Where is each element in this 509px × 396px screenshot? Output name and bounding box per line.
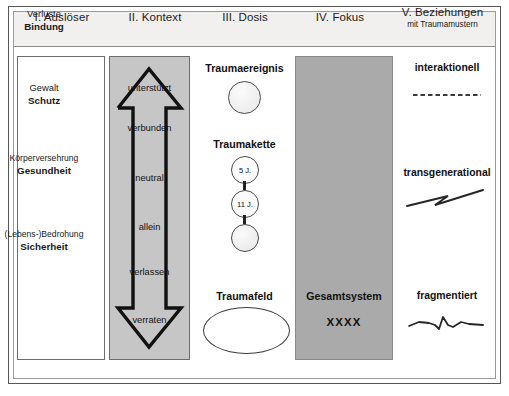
kontext-level-verraten: verraten	[109, 315, 190, 325]
column-header-beziehungen-sublabel: mit Traumamustern	[407, 20, 478, 30]
traumakette-node-3	[231, 224, 259, 252]
traumaereignis-circle	[228, 81, 261, 114]
kontext-level-verbunden: verbunden	[109, 123, 190, 133]
gesamtsystem-label: Gesamtsystem	[295, 290, 393, 302]
trigger-item-bedrohung-bottom: Sicherheit	[0, 241, 92, 254]
trigger-item-bedrohung: (Lebens-)Bedrohung Sicherheit	[0, 228, 92, 253]
kontext-level-allein: allein	[109, 222, 190, 232]
gesamtsystem-marks: XXXX	[295, 316, 393, 328]
kontext-level-unterstuetzt: unterstützt	[109, 83, 190, 93]
jagged-wave-icon	[391, 309, 503, 339]
trigger-item-gewalt-bottom: Schutz	[0, 95, 92, 108]
trigger-item-verluste-top: Verluste	[0, 8, 92, 21]
traumaereignis-label: Traumaereignis	[193, 62, 296, 74]
trigger-item-gewalt: Gewalt Schutz	[0, 82, 92, 107]
trigger-item-koerperversehrung-bottom: Gesundheit	[0, 165, 92, 178]
trigger-item-verluste: Verluste Bindung	[0, 8, 92, 33]
fokus-column-box	[295, 56, 393, 360]
column-header-dosis: III. Dosis	[200, 0, 290, 35]
column-header-dosis-label: III. Dosis	[222, 11, 268, 24]
column-header-kontext: II. Kontext	[110, 0, 200, 35]
kontext-level-verlassen: verlassen	[109, 267, 190, 277]
trigger-item-koerperversehrung-top: Körperversehrung	[0, 152, 92, 165]
traumakette-node-2: 11 J.	[231, 190, 259, 218]
trigger-item-koerperversehrung: Körperversehrung Gesundheit	[0, 152, 92, 177]
traumafeld-ellipse	[203, 307, 290, 354]
column-header-beziehungen: V. Beziehungen mit Traumamustern	[390, 0, 495, 35]
column-header-beziehungen-label: V. Beziehungen	[402, 6, 484, 19]
beziehung-label-transgenerational: transgenerational	[391, 167, 503, 178]
traumakette-link-1	[243, 181, 246, 190]
trigger-item-bedrohung-top: (Lebens-)Bedrohung	[0, 228, 92, 241]
traumakette-link-2	[243, 215, 246, 224]
trigger-item-gewalt-top: Gewalt	[0, 82, 92, 95]
traumakette-label: Traumakette	[193, 138, 296, 150]
traumakette-node-1: 5 J.	[231, 156, 259, 184]
beziehung-label-interaktionell: interaktionell	[391, 62, 503, 73]
kontext-level-neutral: neutral	[109, 173, 190, 183]
diagram-canvas: I. Auslöser II. Kontext III. Dosis IV. F…	[0, 0, 509, 396]
column-header-kontext-label: II. Kontext	[129, 11, 182, 24]
lightning-zigzag-icon	[391, 184, 503, 214]
trigger-item-verluste-bottom: Bindung	[0, 21, 92, 34]
column-header-fokus: IV. Fokus	[290, 0, 390, 35]
beziehung-label-fragmentiert: fragmentiert	[391, 290, 503, 301]
traumafeld-label: Traumafeld	[193, 290, 296, 302]
column-header-fokus-label: IV. Fokus	[316, 11, 364, 24]
dashed-line-icon	[391, 80, 503, 110]
